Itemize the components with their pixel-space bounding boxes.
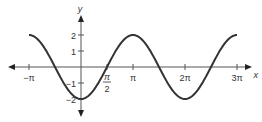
x-tick-label: 3π (231, 73, 242, 83)
y-axis-up-arrow-icon (78, 15, 84, 22)
x-axis-right-arrow-icon (245, 64, 252, 70)
y-tick-label: −2 (66, 95, 76, 105)
y-tick-label: 1 (71, 47, 76, 57)
cosine-graph: xy−ππ2π2π3π21−1−2 (0, 0, 262, 122)
x-axis-label: x (253, 70, 259, 80)
x-tick-label-numerator: π (104, 72, 111, 82)
x-tick-label: 2π (179, 73, 190, 83)
x-tick-label-denominator: 2 (104, 84, 109, 94)
y-axis-down-arrow-icon (78, 110, 84, 117)
y-axis-label: y (77, 4, 83, 14)
x-axis-left-arrow-icon (8, 64, 15, 70)
axes (8, 15, 252, 117)
x-tick-label: −π (23, 73, 34, 83)
y-tick-label: −1 (66, 79, 76, 89)
x-tick-label: π (130, 73, 136, 83)
labels: xy−ππ2π2π3π21−1−2 (23, 4, 258, 105)
y-tick-label: 2 (71, 31, 76, 41)
